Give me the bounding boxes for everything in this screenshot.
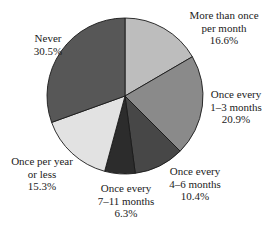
label-once-every-1-3-months: Once every 1–3 months 20.9% [204, 88, 264, 126]
label-line: 4–6 months [159, 178, 231, 191]
label-once-every-7-11-months: Once every 7–11 months 6.3% [88, 182, 164, 220]
label-line: Once every [204, 88, 264, 101]
label-line: Once every [88, 182, 164, 195]
label-percent: 6.3% [88, 207, 164, 220]
label-once-every-4-6-months: Once every 4–6 months 10.4% [159, 165, 231, 203]
label-line: Once every [159, 165, 231, 178]
label-percent: 20.9% [204, 113, 264, 126]
label-percent: 15.3% [2, 180, 82, 193]
label-percent: 16.6% [178, 34, 264, 47]
label-percent: 30.5% [28, 45, 68, 58]
label-line: 1–3 months [204, 101, 264, 114]
label-once-per-year-or-less: Once per year or less 15.3% [2, 155, 82, 193]
label-never: Never 30.5% [28, 32, 68, 57]
label-line: More than once [178, 9, 264, 22]
label-line: Never [28, 32, 68, 45]
label-line: per month [178, 22, 264, 35]
label-more-than-once-per-month: More than once per month 16.6% [178, 9, 264, 47]
label-line: Once per year [2, 155, 82, 168]
label-line: or less [2, 168, 82, 181]
label-percent: 10.4% [159, 190, 231, 203]
label-line: 7–11 months [88, 195, 164, 208]
